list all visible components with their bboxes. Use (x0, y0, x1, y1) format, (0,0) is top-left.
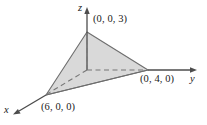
figure-container: (0, 0, 3) (0, 4, 0) (6, 0, 0) z y x (0, 0, 207, 125)
label-y-intercept: (0, 4, 0) (140, 74, 174, 85)
label-axis-y: y (190, 74, 195, 85)
z-axis-arrowhead (84, 7, 89, 14)
label-z-intercept: (0, 0, 3) (93, 14, 127, 25)
label-axis-x: x (4, 105, 9, 116)
label-x-intercept: (6, 0, 0) (41, 102, 75, 113)
label-axis-z: z (78, 3, 82, 14)
x-axis-arrowhead (13, 109, 21, 115)
y-axis-arrowhead (190, 67, 197, 72)
